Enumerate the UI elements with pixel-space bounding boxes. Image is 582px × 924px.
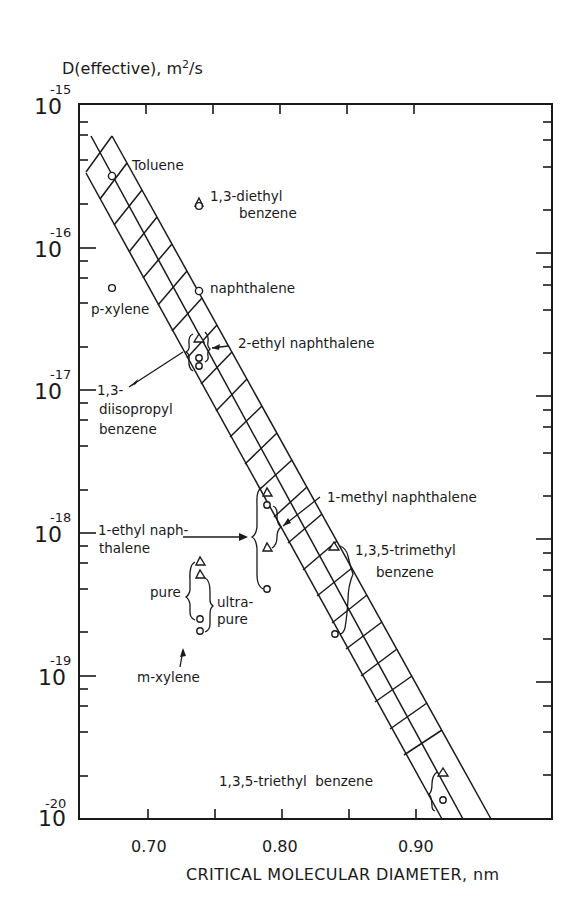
- leader-diisopropyl: [129, 352, 183, 387]
- ytick-base-m15: 10: [34, 94, 62, 119]
- ytick-exp-m19: -19: [50, 653, 71, 668]
- xtick-label-070: 0.70: [131, 837, 167, 856]
- label-trimethyl-line1: 1,3,5-trimethyl: [355, 542, 456, 558]
- brace-mxylene-pure: [186, 562, 195, 620]
- ytick-base-m18: 10: [34, 522, 62, 547]
- label-toluene: Toluene: [131, 157, 184, 173]
- point-2ethylnaph-triangle: [194, 334, 204, 342]
- point-mxylene-pure-triangle-1: [196, 557, 205, 565]
- x-tick-labels: 0.70 0.80 0.90: [131, 837, 434, 856]
- label-1ethylnaph-line2: thalene: [99, 540, 150, 556]
- point-1methylnaph-circle: [264, 502, 270, 508]
- brace-mxylene-ultrapure: [205, 578, 213, 632]
- brace-1ethylnaph: [252, 487, 263, 589]
- point-triethyl-circle: [440, 797, 446, 803]
- correlation-band: [86, 136, 491, 819]
- point-1methylnaph-triangle: [263, 488, 272, 496]
- label-naphthalene: naphthalene: [210, 280, 295, 296]
- arrow-1ethylnaph: [239, 533, 248, 541]
- label-diethyl-line2: benzene: [239, 205, 297, 221]
- point-trimethyl-circle: [332, 631, 338, 637]
- y-axis-ticks-right: [536, 122, 552, 775]
- label-pure: pure: [150, 584, 181, 600]
- arrow-2ethylnaph: [212, 344, 220, 350]
- label-ultrapure-line1: ultra-: [217, 594, 253, 610]
- arrow-mxylene: [180, 648, 186, 657]
- ytick-base-m19: 10: [38, 665, 66, 690]
- point-diethylbenzene-circle: [196, 203, 203, 210]
- point-naphthalene: [195, 287, 202, 294]
- xtick-label-080: 0.80: [262, 837, 298, 856]
- ytick-exp-m15: -15: [50, 82, 71, 97]
- x-axis-title: CRITICAL MOLECULAR DIAMETER, nm: [186, 865, 500, 884]
- point-2ethylnaph-circle-1: [196, 355, 202, 361]
- data-markers: [108, 172, 448, 803]
- label-1methylnaph: 1-methyl naphthalene: [327, 489, 477, 505]
- label-ultrapure-line2: pure: [217, 611, 248, 627]
- point-mxylene-circle-1: [197, 616, 203, 622]
- label-triethyl: 1,3,5-triethyl benzene: [219, 773, 373, 789]
- arrow-1methylnaph: [283, 518, 291, 526]
- ytick-exp-m17: -17: [50, 367, 71, 382]
- label-diethyl-line1: 1,3-diethyl: [210, 188, 283, 204]
- brace-triethyl: [429, 772, 437, 811]
- y-tick-labels: 10 -15 10 -16 10 -17 10 -18 10 -19 10 -2…: [34, 82, 71, 831]
- label-diisopropyl-line1: 1,3-: [97, 382, 123, 398]
- label-trimethyl-line2: benzene: [376, 564, 434, 580]
- ytick-base-m16: 10: [34, 237, 62, 262]
- label-mxylene: m-xylene: [137, 669, 200, 685]
- chart-plot: 10 -15 10 -16 10 -17 10 -18 10 -19 10 -2…: [0, 0, 582, 924]
- point-mxylene-pure-triangle-2: [196, 570, 205, 578]
- label-pxylene: p-xylene: [91, 301, 149, 317]
- annotation-labels: Toluene 1,3-diethyl benzene naphthalene …: [91, 157, 477, 789]
- xtick-label-090: 0.90: [398, 837, 434, 856]
- point-mxylene-circle-2: [197, 628, 203, 634]
- ytick-base-m17: 10: [34, 379, 62, 404]
- label-1ethylnaph-line1: 1-ethyl naph-: [98, 522, 189, 538]
- label-diisopropyl-line3: benzene: [99, 421, 157, 437]
- plot-frame: [79, 104, 552, 819]
- band-upper-line: [112, 136, 491, 819]
- ytick-exp-m20: -20: [45, 796, 66, 811]
- point-triethyl-triangle: [438, 768, 448, 776]
- point-toluene: [108, 172, 115, 179]
- point-pxylene: [109, 285, 116, 292]
- ytick-exp-m16: -16: [50, 225, 71, 240]
- point-2ethylnaph-circle-2: [196, 363, 202, 369]
- label-2ethylnaph: 2-ethyl naphthalene: [238, 335, 375, 351]
- point-1ethylnaph-circle: [264, 586, 270, 592]
- point-1ethylnaph-triangle: [263, 543, 272, 551]
- y-axis-ticks: [79, 122, 96, 776]
- label-diisopropyl-line2: diisopropyl: [99, 401, 173, 417]
- ytick-exp-m18: -18: [50, 510, 71, 525]
